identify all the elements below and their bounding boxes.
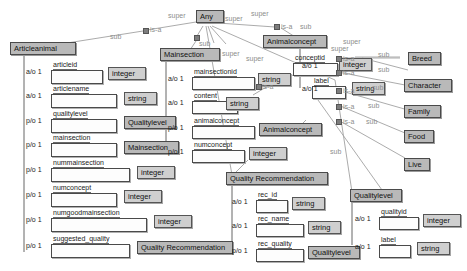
class-mainsection[interactable]: Mainsection xyxy=(160,48,220,61)
type-ms-numconcept[interactable]: integer xyxy=(249,147,287,160)
slot-ql-label[interactable] xyxy=(379,245,411,258)
type-content[interactable]: string xyxy=(226,97,259,110)
type-rec-name[interactable]: string xyxy=(308,221,341,234)
class-animalconcept[interactable]: Animalconcept xyxy=(263,35,327,48)
slot-rec-id[interactable] xyxy=(256,200,288,213)
edge-label-super-3: super xyxy=(251,10,269,18)
attr-animalconcept: animalconcept xyxy=(194,117,239,126)
edge-label-sub-8: sub xyxy=(366,118,377,126)
cardinality-animalconcept: p/o 1 xyxy=(168,124,184,132)
type-numgoodmainsection[interactable]: integer xyxy=(154,215,192,228)
cardinality-conceptid: a/o 1 xyxy=(302,62,318,70)
slot-suggested-quality[interactable] xyxy=(51,244,130,258)
attr-articleid: articleid xyxy=(53,61,77,70)
cardinality-ac-label: a/o 1 xyxy=(302,85,318,93)
edge-label-isa-6: is-a xyxy=(343,103,354,111)
isa-node-articleanimal xyxy=(143,28,149,34)
type-rec-id[interactable]: string xyxy=(292,197,325,210)
cardinality-mainsectionid: a/o 1 xyxy=(168,75,184,83)
class-family[interactable]: Family xyxy=(404,105,441,118)
edge-label-super-5: super xyxy=(246,55,264,63)
slot-articlename[interactable] xyxy=(51,94,117,108)
slot-animalconcept[interactable] xyxy=(192,126,255,139)
attr-rec-name: rec_name xyxy=(258,215,289,224)
class-live[interactable]: Live xyxy=(404,158,430,171)
attr-content: content xyxy=(194,92,217,101)
cardinality-numconcept: p/o 1 xyxy=(26,191,42,199)
class-quality-recommendation[interactable]: Quality Recommendation xyxy=(226,172,328,185)
attr-numconcept: numconcept xyxy=(53,184,91,193)
slot-numconcept[interactable] xyxy=(51,193,117,207)
slot-mainsectionid[interactable] xyxy=(192,77,255,90)
attr-qualityid: qualityid xyxy=(381,208,407,217)
attr-mainsectionid: mainsectionid xyxy=(194,68,237,77)
class-articleanimal[interactable]: Articleanimal xyxy=(10,42,76,55)
slot-qualitylevel[interactable] xyxy=(51,119,117,133)
edge-label-isa-3: is-a xyxy=(343,55,354,63)
edge-label-isa-2: is-a xyxy=(281,23,292,31)
isa-node-character xyxy=(336,70,342,76)
isa-node-food xyxy=(336,104,342,110)
cardinality-rec-id: a/o 1 xyxy=(232,198,248,206)
slot-articleid[interactable] xyxy=(51,70,103,84)
class-any[interactable]: Any xyxy=(196,10,224,23)
slot-nummainsection[interactable] xyxy=(51,168,130,182)
diagram-canvas: is-a sub super super super sub is-a sub … xyxy=(0,0,467,271)
attr-ql-label: label xyxy=(381,236,396,245)
type-qualityid[interactable]: integer xyxy=(423,214,461,227)
attr-conceptid: conceptid xyxy=(295,54,325,63)
attr-articlename: articlename xyxy=(53,85,89,94)
cardinality-ql-label: a/o 1 xyxy=(355,243,371,251)
slot-qualityid[interactable] xyxy=(379,217,419,230)
cardinality-nummainsection: p/o 1 xyxy=(26,166,42,174)
slot-rec-name[interactable] xyxy=(256,224,304,237)
edge-label-sub-2: sub xyxy=(199,40,210,48)
type-articleid[interactable]: integer xyxy=(108,67,146,80)
isa-node-animalconcept xyxy=(274,24,280,30)
attr-ms-numconcept: numconcept xyxy=(194,141,232,150)
attr-suggested-quality: suggested_quality xyxy=(53,235,109,244)
cardinality-qualitylevel: p/o 1 xyxy=(26,117,42,125)
edge-label-sub: sub xyxy=(110,33,121,41)
edge-label-isa-5: is-a xyxy=(343,87,354,95)
edge-label-sub-7: sub xyxy=(368,102,379,110)
cardinality-ms-numconcept: p/o 1 xyxy=(168,148,184,156)
type-numconcept[interactable]: integer xyxy=(124,190,162,203)
class-food[interactable]: Food xyxy=(404,130,434,143)
edge-label-sub-3: sub xyxy=(300,23,311,31)
cardinality-suggested-quality: p/o 1 xyxy=(26,242,42,250)
type-rec-quality[interactable]: Qualitylevel xyxy=(308,246,360,259)
type-articlename[interactable]: string xyxy=(124,92,157,105)
type-suggested-quality[interactable]: Quality Recommendation xyxy=(137,241,233,254)
attr-mainsection: mainsection xyxy=(53,134,90,143)
attr-rec-quality: rec_quality xyxy=(258,240,292,249)
edge-label-sub-9: sub xyxy=(330,148,341,156)
cardinality-qualityid: a/o 1 xyxy=(355,215,371,223)
cardinality-rec-name: a/o 1 xyxy=(232,222,248,230)
edge-label-super: super xyxy=(168,12,186,20)
edge-label-sub-5: sub xyxy=(378,66,389,74)
class-breed[interactable]: Breed xyxy=(408,52,441,65)
cardinality-rec-quality: p/o 1 xyxy=(232,247,248,255)
type-animalconcept[interactable]: Animalconcept xyxy=(259,123,322,136)
edge-label-isa: is-a xyxy=(150,26,161,34)
edge-label-super-4: super xyxy=(222,50,240,58)
slot-numgoodmainsection[interactable] xyxy=(51,218,147,232)
class-character[interactable]: Character xyxy=(404,79,452,92)
edge-label-isa-8: is-a xyxy=(262,83,273,91)
attr-ac-label: label xyxy=(314,77,329,86)
cardinality-content: a/o 1 xyxy=(168,99,184,107)
edge-label-super-2: super xyxy=(225,15,243,23)
attr-qualitylevel: qualitylevel xyxy=(53,110,88,119)
slot-mainsection[interactable] xyxy=(51,143,117,157)
class-qualitylevel[interactable]: Qualitylevel xyxy=(350,189,402,202)
slot-ms-numconcept[interactable] xyxy=(192,150,245,163)
edge-label-sub-4: sub xyxy=(378,51,389,59)
type-ql-label[interactable]: string xyxy=(417,242,450,255)
cardinality-numgoodmainsection: p/o 1 xyxy=(26,216,42,224)
type-nummainsection[interactable]: integer xyxy=(137,166,175,179)
isa-node-breed xyxy=(336,56,342,62)
edge-label-isa-7: is-a xyxy=(343,118,354,126)
edge-label-super-7: super xyxy=(331,45,349,53)
slot-rec-quality[interactable] xyxy=(256,249,304,262)
